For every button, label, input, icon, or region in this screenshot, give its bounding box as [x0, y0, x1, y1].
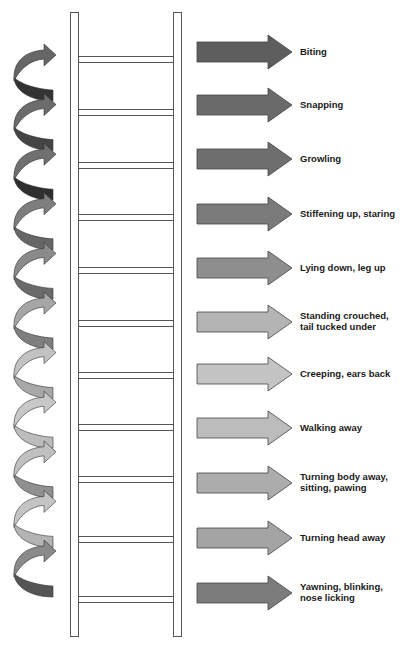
ladder-rung — [79, 110, 174, 116]
step-label: Lying down, leg up — [300, 262, 406, 273]
step-arrow — [197, 35, 292, 69]
ladder-rung — [79, 597, 174, 603]
ladder — [71, 13, 182, 637]
curved-arrow — [14, 193, 56, 250]
step-label: Growling — [300, 153, 406, 164]
step-label-line: Creeping, ears back — [300, 368, 406, 379]
curved-arrows — [14, 44, 56, 597]
step-arrow — [197, 357, 292, 391]
curved-arrow — [14, 292, 56, 349]
step-label: Creeping, ears back — [300, 368, 406, 379]
ladder-rung — [79, 57, 174, 63]
ladder-rung — [79, 373, 174, 379]
step-arrow — [197, 411, 292, 445]
step-arrow — [197, 305, 292, 339]
curved-arrow — [14, 441, 56, 498]
step-arrow — [197, 466, 292, 500]
step-label: Turning body away,sitting, pawing — [300, 471, 406, 493]
ladder-rung — [79, 537, 174, 543]
step-arrow — [197, 142, 292, 176]
step-label: Yawning, blinking,nose licking — [300, 581, 406, 603]
step-arrow — [197, 251, 292, 285]
step-label-line: Biting — [300, 46, 406, 57]
step-arrow — [197, 88, 292, 122]
step-label-line: Snapping — [300, 99, 406, 110]
curved-arrow — [14, 44, 56, 101]
step-label-line: Lying down, leg up — [300, 262, 406, 273]
ladder-rung — [79, 477, 174, 483]
curved-arrow — [14, 242, 56, 299]
ladder-rung — [79, 163, 174, 169]
curved-arrow — [14, 342, 56, 399]
ladder-right-rail — [174, 13, 182, 637]
step-label-line: nose licking — [300, 592, 406, 603]
step-label-line: Walking away — [300, 422, 406, 433]
ladder-rung — [79, 321, 174, 327]
curved-arrow — [14, 143, 56, 200]
curved-arrow — [14, 391, 56, 448]
step-arrow — [197, 521, 292, 555]
step-arrow — [197, 197, 292, 231]
step-label-line: Turning head away — [300, 532, 406, 543]
ladder-left-rail — [71, 13, 79, 637]
ladder-rung — [79, 425, 174, 431]
step-arrows — [197, 35, 292, 610]
step-arrow — [197, 576, 292, 610]
curved-arrow — [14, 540, 56, 597]
curved-arrow — [14, 490, 56, 547]
step-label-line: sitting, pawing — [300, 482, 406, 493]
step-label-line: tail tucked under — [300, 321, 406, 332]
step-label-line: Turning body away, — [300, 471, 406, 482]
step-label: Biting — [300, 46, 406, 57]
step-label: Standing crouched,tail tucked under — [300, 310, 406, 332]
step-label: Snapping — [300, 99, 406, 110]
step-label: Turning head away — [300, 532, 406, 543]
ladder-rung — [79, 268, 174, 274]
step-label-line: Yawning, blinking, — [300, 581, 406, 592]
step-label: Walking away — [300, 422, 406, 433]
step-label-line: Standing crouched, — [300, 310, 406, 321]
step-label-line: Growling — [300, 153, 406, 164]
step-label: Stiffening up, staring — [300, 208, 406, 219]
step-label-line: Stiffening up, staring — [300, 208, 406, 219]
curved-arrow — [14, 94, 56, 151]
ladder-rung — [79, 215, 174, 221]
